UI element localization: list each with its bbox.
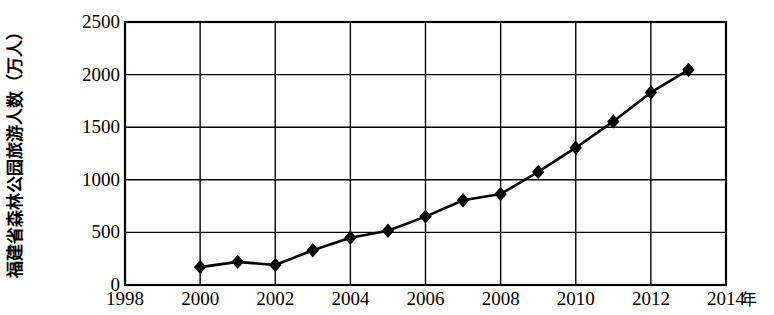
data-point-marker bbox=[419, 209, 431, 223]
data-point-marker bbox=[607, 114, 619, 128]
plot-area bbox=[0, 0, 774, 315]
data-point-marker bbox=[570, 141, 582, 155]
x-axis-tick-label: 1998 bbox=[90, 289, 160, 310]
x-axis-tick-label: 2004 bbox=[315, 289, 385, 310]
x-axis-tick-label: 2002 bbox=[240, 289, 310, 310]
x-axis-tick-label: 2014 bbox=[691, 289, 761, 310]
x-axis-tick-label: 2012 bbox=[616, 289, 686, 310]
x-axis-tick-label: 2000 bbox=[165, 289, 235, 310]
data-point-marker bbox=[645, 85, 657, 99]
x-axis-tick-label: 2006 bbox=[391, 289, 461, 310]
x-axis-tick-labels: 年 199820002002200420062008201020122014 bbox=[0, 289, 774, 315]
data-line bbox=[200, 70, 688, 267]
data-point-marker bbox=[307, 243, 319, 257]
data-markers bbox=[194, 63, 695, 275]
data-point-marker bbox=[532, 165, 544, 179]
x-axis-tick-label: 2010 bbox=[541, 289, 611, 310]
data-point-marker bbox=[382, 224, 394, 238]
data-point-marker bbox=[457, 193, 469, 207]
x-axis-tick-label: 2008 bbox=[466, 289, 536, 310]
data-point-marker bbox=[269, 258, 281, 272]
chart-figure: 福建省森林公园旅游人数（万人） 05001000150020002500 年 1… bbox=[0, 0, 774, 315]
data-point-marker bbox=[194, 260, 206, 274]
data-point-marker bbox=[494, 187, 506, 201]
grid-lines bbox=[125, 22, 726, 285]
data-point-marker bbox=[231, 255, 243, 269]
